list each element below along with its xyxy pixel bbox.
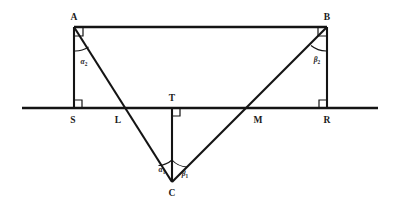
- point-label-R: R: [324, 115, 331, 125]
- angle-label-beta-1: β1: [181, 169, 189, 179]
- angle-subscript-beta-1: 1: [186, 173, 189, 179]
- geometry-canvas: A B C S L T M R α2 β2 α1 β1: [0, 0, 398, 211]
- point-label-L: L: [115, 115, 121, 125]
- angle-subscript-alpha-1: 1: [163, 169, 166, 175]
- point-label-C: C: [169, 188, 176, 198]
- angle-label-alpha-1: α1: [159, 165, 166, 175]
- angle-arc-beta-2: [311, 46, 327, 52]
- point-label-T: T: [169, 93, 176, 103]
- angle-subscript-beta-2: 2: [318, 59, 321, 65]
- segment-BC: [172, 27, 327, 182]
- geometry-figure: A B C S L T M R α2 β2 α1 β1: [0, 0, 398, 211]
- angle-label-alpha-2: α2: [81, 57, 88, 67]
- point-label-S: S: [70, 115, 75, 125]
- point-label-M: M: [254, 115, 263, 125]
- segment-AC: [74, 27, 172, 182]
- point-label-A: A: [71, 12, 78, 22]
- angle-subscript-alpha-2: 2: [85, 61, 88, 67]
- angle-arc-beta-1: [172, 160, 187, 167]
- point-label-B: B: [324, 12, 331, 22]
- angle-label-beta-2: β2: [313, 55, 321, 65]
